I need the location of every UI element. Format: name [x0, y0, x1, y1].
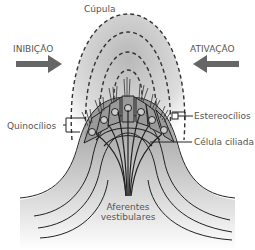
inhibition-label: INIBIÇÃO: [13, 44, 53, 54]
afferents-label-line2: vestibulares: [98, 212, 158, 222]
afferents-label-line1: Aferentes: [98, 202, 158, 212]
inhibition-arrow: [16, 55, 62, 73]
hair-cell-label: Célula ciliada: [194, 137, 254, 147]
afferents-label: Aferentes vestibulares: [98, 202, 158, 222]
activation-arrow: [193, 55, 239, 73]
cupula-label: Cúpula: [84, 4, 115, 14]
kinocilia-label: Quinocílios: [7, 121, 56, 131]
stereocilia-label: Estereocílios: [194, 111, 251, 121]
cupula-diagram: Cúpula INIBIÇÃO ATIVAÇÃO Estereocílios Q…: [0, 0, 255, 250]
activation-label: ATIVAÇÃO: [190, 44, 235, 54]
